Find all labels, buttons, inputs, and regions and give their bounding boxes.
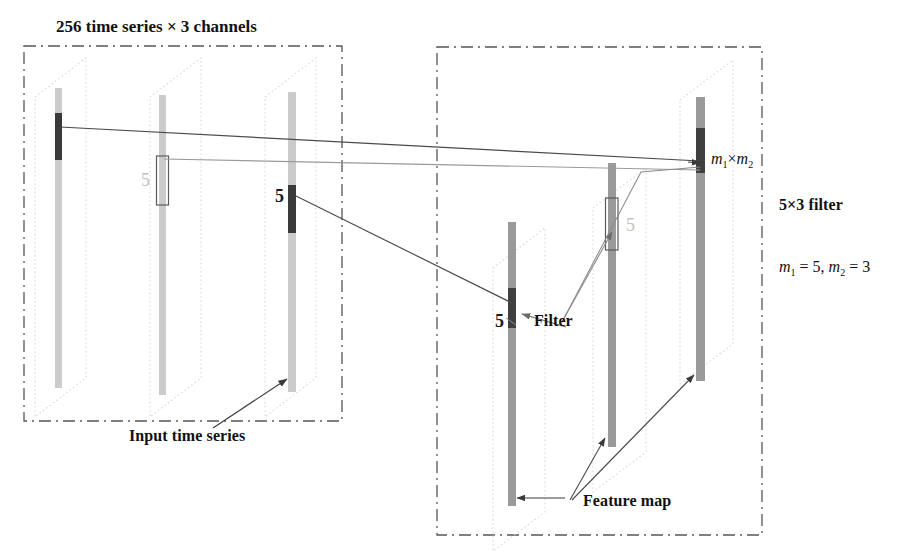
filter-label: Filter xyxy=(534,312,573,330)
input-segment-3 xyxy=(288,185,296,233)
m1-times-m2-label: m1×m2 xyxy=(711,150,753,170)
page-title: 256 time series × 3 channels xyxy=(56,17,257,37)
diagram-svg xyxy=(0,0,913,557)
connector-lines xyxy=(60,127,700,303)
m2-subscript: 2 xyxy=(748,159,753,170)
output-segment-3 xyxy=(696,128,705,173)
input-time-series-label: Input time series xyxy=(129,427,245,445)
five-label-output-mid: 5 xyxy=(626,215,635,236)
m2-value-symbol: m xyxy=(829,258,841,275)
feature-map-callout-arrows xyxy=(517,375,694,500)
input-bar-2 xyxy=(157,95,169,395)
output-plane-3 xyxy=(680,60,733,384)
input-segment-1 xyxy=(55,113,62,160)
m2-value-eq: = 3 xyxy=(845,258,870,275)
m1-value-symbol: m xyxy=(779,258,791,275)
m2-symbol: m xyxy=(737,150,749,167)
output-panel-border xyxy=(437,47,762,535)
output-plane-2 xyxy=(593,168,646,492)
output-bar-3 xyxy=(696,97,705,381)
five-label-input-right: 5 xyxy=(275,186,284,207)
input-bar-3 xyxy=(288,92,296,392)
m-values-label: m1 = 5, m2 = 3 xyxy=(779,258,870,278)
output-bar-2 xyxy=(606,163,619,447)
m1-symbol: m xyxy=(711,150,723,167)
figure-canvas: 256 time series × 3 channels Input time … xyxy=(0,0,913,557)
feature-map-label: Feature map xyxy=(583,492,671,510)
input-plane-2 xyxy=(150,58,201,417)
filter-size-label: 5×3 filter xyxy=(779,196,843,214)
output-plane-1 xyxy=(493,228,545,551)
times-symbol: × xyxy=(728,150,737,167)
output-bar-1 xyxy=(508,222,516,506)
input-bar-1 xyxy=(55,88,62,388)
five-label-output-left: 5 xyxy=(495,311,504,332)
m1-value-eq: = 5, xyxy=(796,258,829,275)
five-label-input-mid: 5 xyxy=(141,170,150,191)
